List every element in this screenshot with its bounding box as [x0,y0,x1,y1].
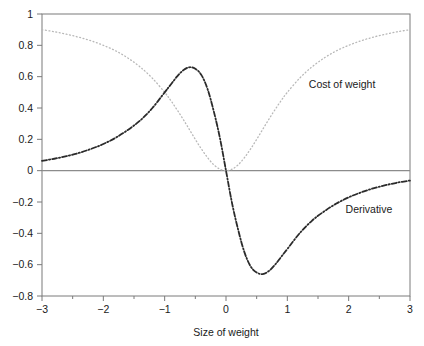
y-tick-label: 0.6 [18,70,33,82]
series-label-derivative: Derivative [346,203,393,215]
y-tick-label: −0.2 [12,196,33,208]
y-tick-label: 0.4 [18,102,33,114]
y-tick-label: 0.8 [18,39,33,51]
x-axis-title: Size of weight [193,326,258,338]
y-tick-label: 0 [27,164,33,176]
x-tick-label: −3 [36,303,48,315]
x-tick-label: 3 [407,303,413,315]
y-tick-label: 1 [27,8,33,20]
y-axis-tick-labels: −0.8−0.6−0.4−0.200.20.40.60.81 [12,8,33,302]
x-tick-label: −1 [159,303,171,315]
y-axis-ticks [37,14,42,296]
series-annotations: Cost of weightDerivative [309,78,393,215]
plot-border [42,14,410,296]
series-label-cost-of-weight: Cost of weight [309,78,376,90]
series-line-cost-of-weight [42,30,410,171]
x-axis-tick-labels: −3−2−10123 [36,303,413,315]
x-tick-label: −2 [97,303,109,315]
y-tick-label: −0.6 [12,258,33,270]
chart-canvas: −3−2−10123 −0.8−0.6−0.4−0.200.20.40.60.8… [0,0,424,346]
x-axis-ticks [42,296,410,301]
x-tick-label: 2 [346,303,352,315]
data-series-group [42,30,410,274]
chart-figure: −3−2−10123 −0.8−0.6−0.4−0.200.20.40.60.8… [0,0,424,346]
x-tick-label: 1 [284,303,290,315]
y-tick-label: 0.2 [18,133,33,145]
plot-frame [42,14,410,296]
y-tick-label: −0.8 [12,290,33,302]
x-tick-label: 0 [223,303,229,315]
y-tick-label: −0.4 [12,227,33,239]
